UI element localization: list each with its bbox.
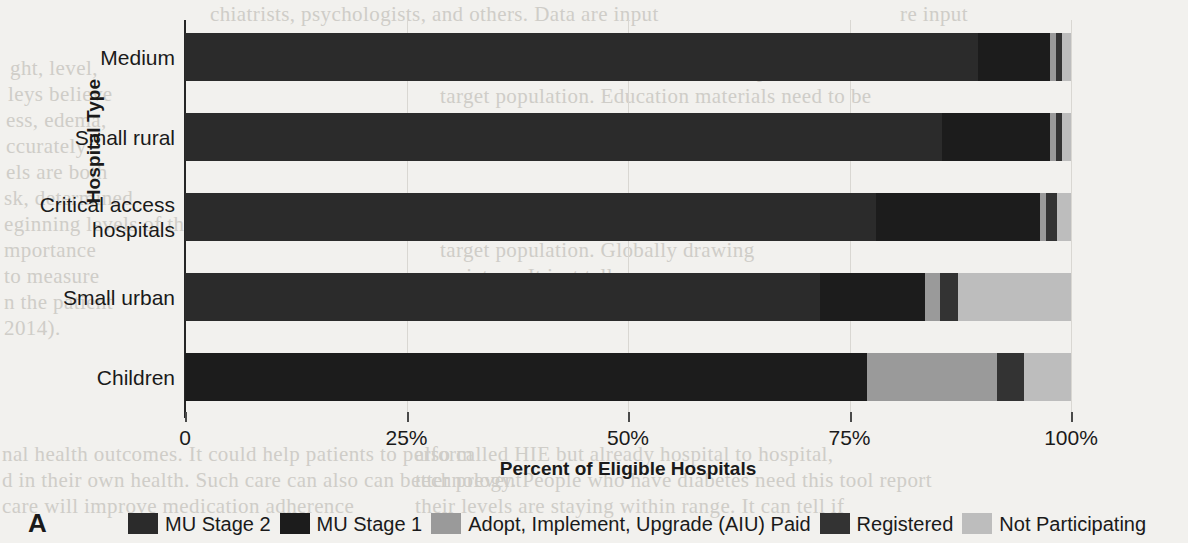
bar-segment — [1062, 113, 1071, 161]
legend-label: MU Stage 1 — [317, 514, 423, 534]
bar-segment — [1057, 193, 1071, 241]
bar-segment — [978, 33, 1050, 81]
x-tick-label: 50% — [607, 426, 649, 450]
x-tick-label: 75% — [828, 426, 870, 450]
legend-swatch-icon — [962, 513, 992, 534]
bar-segment — [185, 33, 978, 81]
gridline — [1071, 20, 1072, 412]
legend-item: Registered — [820, 513, 954, 534]
bar-segment — [925, 273, 940, 321]
bar-row — [185, 113, 1071, 161]
legend-label: Adopt, Implement, Upgrade (AIU) Paid — [468, 514, 810, 534]
bar-segment — [185, 273, 820, 321]
y-axis-category-label: Small urban — [0, 285, 175, 310]
legend-swatch-icon — [280, 513, 310, 534]
bar-segment — [185, 193, 876, 241]
x-tick-mark — [185, 412, 187, 422]
bar-segment — [942, 113, 1050, 161]
bar-segment — [1046, 193, 1057, 241]
x-tick-mark — [407, 412, 409, 422]
y-axis-category-label: Children — [0, 365, 175, 390]
bar-segment — [958, 273, 1071, 321]
bar-row — [185, 273, 1071, 321]
stacked-bar-chart: Hospital Type 025%50%75%100% MediumSmall… — [0, 0, 1188, 543]
bar-segment — [876, 193, 1040, 241]
bar-row — [185, 33, 1071, 81]
x-tick-mark — [1071, 412, 1073, 422]
bar-segment — [185, 113, 942, 161]
panel-letter: A — [28, 508, 47, 539]
legend-item: Adopt, Implement, Upgrade (AIU) Paid — [431, 513, 810, 534]
y-axis-category-label: Small rural — [0, 125, 175, 150]
legend-swatch-icon — [128, 513, 158, 534]
bar-segment — [940, 273, 958, 321]
legend-swatch-icon — [820, 513, 850, 534]
bar-row — [185, 353, 1071, 401]
x-tick-mark — [628, 412, 630, 422]
y-axis-category-label: Medium — [0, 45, 175, 70]
bar-segment — [1062, 33, 1071, 81]
x-tick-label: 0 — [179, 426, 191, 450]
legend-item: MU Stage 2 — [128, 513, 271, 534]
bar-segment — [820, 273, 925, 321]
bar-row — [185, 193, 1071, 241]
y-axis-category-label: Critical access hospitals — [0, 192, 175, 242]
legend-swatch-icon — [431, 513, 461, 534]
x-tick-mark — [850, 412, 852, 422]
legend-item: MU Stage 1 — [280, 513, 423, 534]
legend-item: Not Participating — [962, 513, 1146, 534]
bar-segment — [867, 353, 997, 401]
bar-segment — [1024, 353, 1071, 401]
legend-label: Not Participating — [999, 514, 1146, 534]
x-axis-title: Percent of Eligible Hospitals — [185, 458, 1071, 480]
bar-segment — [185, 353, 867, 401]
x-tick-label: 25% — [385, 426, 427, 450]
chart-legend: MU Stage 2MU Stage 1Adopt, Implement, Up… — [128, 513, 1146, 534]
plot-area: 025%50%75%100% — [185, 20, 1071, 412]
legend-label: MU Stage 2 — [165, 514, 271, 534]
legend-label: Registered — [857, 514, 954, 534]
bar-segment — [997, 353, 1024, 401]
x-tick-label: 100% — [1044, 426, 1098, 450]
